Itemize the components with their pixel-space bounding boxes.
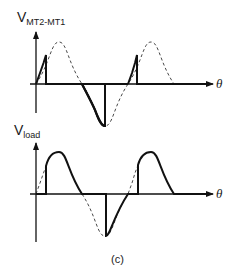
triac-voltage-solid xyxy=(36,55,206,126)
xlabel-theta-top: θ xyxy=(216,76,222,92)
xlabel-theta-bottom: θ xyxy=(216,186,222,202)
ylabel-sub: load xyxy=(23,130,40,140)
ylabel-vload: Vload xyxy=(14,121,40,139)
ylabel-main: V xyxy=(14,122,23,138)
plot-vmt2-mt1 xyxy=(30,32,213,126)
ylabel-vmt2-mt1: VMT2-MT1 xyxy=(17,8,65,26)
ylabel-sub: MT2-MT1 xyxy=(26,17,65,27)
figure-caption: (c) xyxy=(111,253,124,265)
source-sine-dashed xyxy=(36,165,138,236)
ylabel-main: V xyxy=(17,9,26,25)
plot-vload xyxy=(30,143,213,242)
